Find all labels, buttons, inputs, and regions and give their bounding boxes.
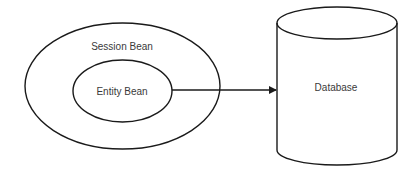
session-bean-label: Session Bean (91, 41, 153, 52)
database-label: Database (315, 82, 358, 93)
entity-bean-label: Entity Bean (96, 86, 147, 97)
